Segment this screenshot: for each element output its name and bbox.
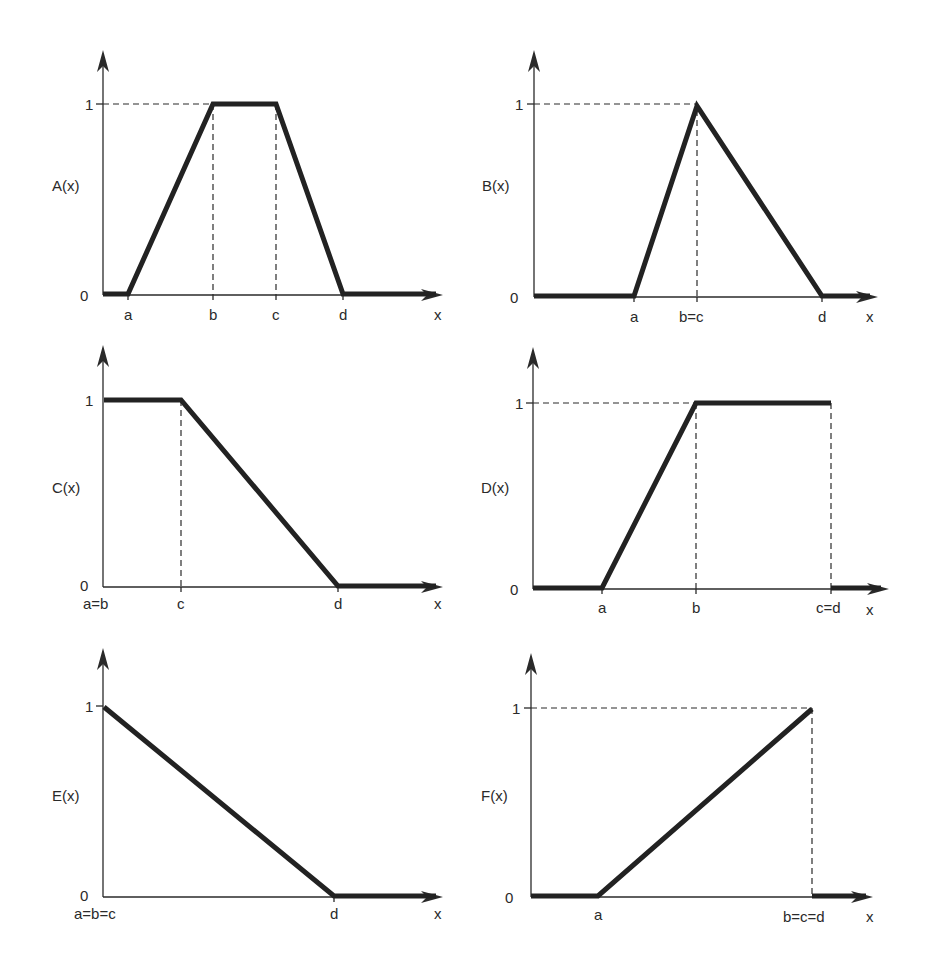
membership-curve [533, 403, 831, 588]
x-axis-label: x [434, 306, 442, 323]
xtick-a: a [124, 306, 133, 323]
xtick-d: d [339, 306, 347, 323]
xtick-a: a [594, 906, 603, 923]
xtick-b-c: b=c [679, 308, 704, 325]
membership-curve [103, 104, 436, 294]
membership-curve [104, 400, 436, 586]
chart-e: 1 0 E(x) a=b=c d x [52, 648, 443, 922]
membership-curve [531, 709, 812, 896]
xtick-a-b-c: a=b=c [74, 905, 116, 922]
ytick-one: 1 [85, 392, 93, 409]
membership-functions-figure: 1 0 A(x) a b c d x 1 0 B(x) a b=c d x [0, 0, 926, 976]
xtick-a: a [598, 599, 607, 616]
chart-a: 1 0 A(x) a b c d x [52, 50, 443, 323]
xtick-d: d [334, 595, 342, 612]
y-axis-label: E(x) [52, 787, 80, 804]
ytick-zero: 0 [80, 887, 88, 904]
x-axis-label: x [866, 908, 874, 925]
membership-curve [534, 106, 870, 296]
y-axis-label: B(x) [482, 177, 510, 194]
y-axis-label: F(x) [481, 787, 508, 804]
y-axis-label: A(x) [52, 177, 80, 194]
x-axis-label: x [866, 308, 874, 325]
xtick-c: c [177, 595, 185, 612]
membership-curve [104, 707, 436, 896]
xtick-a-b: a=b [83, 595, 108, 612]
y-axis-label: C(x) [52, 479, 80, 496]
ytick-zero: 0 [80, 577, 88, 594]
xtick-c-d: c=d [816, 599, 841, 616]
xtick-a: a [630, 308, 639, 325]
xtick-c: c [272, 306, 280, 323]
xtick-d: d [818, 308, 826, 325]
chart-c: 1 0 C(x) a=b c d x [52, 345, 443, 612]
xtick-b: b [209, 306, 217, 323]
ytick-one: 1 [512, 700, 520, 717]
x-axis-label: x [866, 601, 874, 618]
chart-b: 1 0 B(x) a b=c d x [482, 50, 878, 325]
ytick-one: 1 [85, 698, 93, 715]
chart-f: 1 0 F(x) a b=c=d x [481, 653, 874, 925]
chart-d: 1 0 D(x) a b c=d x [481, 347, 889, 618]
ytick-one: 1 [515, 395, 523, 412]
ytick-zero: 0 [80, 287, 88, 304]
y-axis-label: D(x) [481, 479, 509, 496]
ytick-zero: 0 [510, 289, 518, 306]
xtick-b: b [692, 599, 700, 616]
xtick-d: d [330, 905, 338, 922]
x-axis-label: x [434, 905, 442, 922]
x-axis-label: x [434, 595, 442, 612]
ytick-one: 1 [85, 96, 93, 113]
ytick-one: 1 [515, 96, 523, 113]
xtick-b-c-d: b=c=d [783, 908, 825, 925]
ytick-zero: 0 [510, 581, 518, 598]
ytick-zero: 0 [505, 889, 513, 906]
